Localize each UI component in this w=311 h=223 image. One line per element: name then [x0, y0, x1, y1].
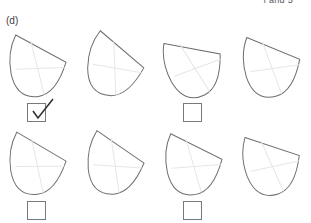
clipped-header-text: f and 5: [263, 0, 293, 3]
option-cell: [234, 124, 311, 222]
question-panel: f and 5 (d): [0, 0, 311, 223]
option-checkbox[interactable]: [27, 103, 46, 122]
option-cell: [78, 124, 156, 222]
curved-quadrilateral-tile-icon: [0, 124, 78, 200]
options-row-1: [0, 26, 311, 124]
curved-quadrilateral-tile-icon: [0, 26, 78, 102]
curved-quadrilateral-tile-icon: [234, 26, 311, 102]
option-cell: [0, 124, 78, 222]
curved-quadrilateral-tile-icon: [78, 124, 156, 200]
options-row-2: [0, 124, 311, 222]
option-cell: [0, 26, 78, 124]
option-checkbox[interactable]: [27, 201, 46, 220]
curved-quadrilateral-tile-icon: [156, 26, 234, 102]
option-cell: [156, 26, 234, 124]
option-cell: [78, 26, 156, 124]
curved-quadrilateral-tile-icon: [78, 26, 156, 102]
options-grid: [0, 26, 311, 223]
option-cell: [156, 124, 234, 222]
curved-quadrilateral-tile-icon: [234, 124, 311, 200]
curved-quadrilateral-tile-icon: [156, 124, 234, 200]
option-cell: [234, 26, 311, 124]
